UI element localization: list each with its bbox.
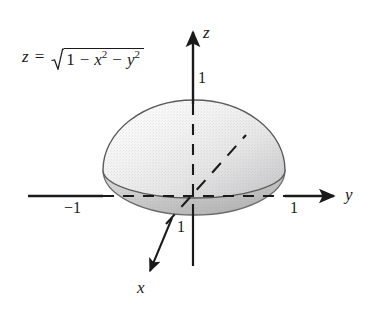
radical-sign-icon	[51, 48, 64, 70]
x-axis-label: x	[137, 279, 145, 296]
radicand-constant: 1	[66, 50, 75, 69]
radicand-term-y: y	[127, 50, 135, 69]
square-root-expression: 1−x2−y2	[51, 48, 144, 70]
hemisphere-figure: z = 1−x2−y2 z y x 1 1 −1 1	[0, 0, 377, 310]
y-axis-tick-1: 1	[290, 200, 298, 216]
hemisphere-solid	[103, 100, 285, 215]
x-axis-front-segment	[150, 218, 172, 271]
radicand: 1−x2−y2	[64, 48, 144, 70]
y-axis-tick-negative-1: −1	[64, 200, 81, 216]
radicand-exponent-x: 2	[102, 48, 108, 60]
surface-equation-label: z = 1−x2−y2	[22, 48, 144, 70]
equation-relation: =	[35, 48, 45, 65]
radicand-operator-2: −	[112, 50, 122, 69]
radicand-exponent-y: 2	[135, 48, 141, 60]
equation-lhs: z	[22, 48, 29, 65]
x-axis-tick-1: 1	[177, 219, 185, 235]
z-axis-label: z	[203, 24, 210, 41]
radicand-term-x: x	[94, 50, 102, 69]
y-axis-label: y	[345, 186, 353, 203]
hemisphere-diagram-canvas	[0, 0, 377, 310]
z-axis-tick-1: 1	[198, 70, 206, 86]
radicand-operator-1: −	[80, 50, 90, 69]
